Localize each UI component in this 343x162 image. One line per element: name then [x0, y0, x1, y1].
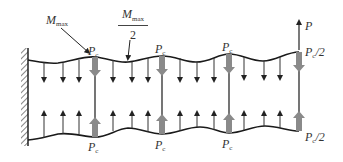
pc-half-top-label: Pc/2	[305, 46, 325, 60]
pc-top-label-1: Pc	[88, 45, 98, 59]
cantilever-diagram: Mmax Mmax 2 P Pc Pc Pc Pc/2 Pc Pc Pc Pc/…	[0, 0, 343, 162]
pc-bottom-label-3: Pc	[222, 138, 232, 152]
pc-top-label-2: Pc	[155, 43, 165, 57]
pc-half-bottom-label: Pc/2	[305, 131, 325, 145]
pc-bottom-label-2: Pc	[155, 139, 165, 153]
m-max-pointer	[61, 28, 88, 52]
load-p-label: P	[305, 20, 312, 32]
m-max-half-label: Mmax 2	[118, 8, 148, 41]
pc-top-label-3: Pc	[222, 41, 232, 55]
m-half-pointer	[128, 40, 130, 58]
pc-bottom-label-1: Pc	[88, 141, 98, 155]
m-max-label: Mmax	[46, 14, 68, 28]
fixed-wall	[21, 48, 28, 146]
